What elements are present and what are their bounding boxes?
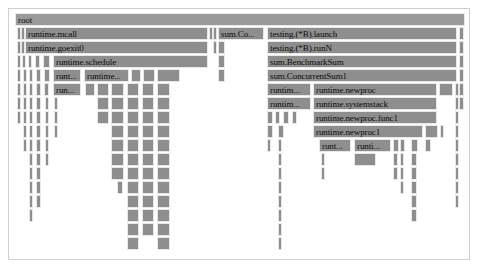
flame-frame-unlabeled[interactable] (54, 97, 58, 110)
flame-frame-unlabeled[interactable] (127, 153, 139, 166)
flame-frame-unlabeled[interactable] (36, 111, 41, 124)
flame-frame-unlabeled[interactable] (142, 181, 154, 194)
flame-frame-unlabeled[interactable] (36, 195, 41, 208)
flame-frame-unlabeled[interactable] (127, 167, 139, 180)
flame-frame-unlabeled[interactable] (400, 181, 404, 194)
flame-frame-unlabeled[interactable] (28, 55, 32, 68)
flame-frame-unlabeled[interactable] (218, 69, 225, 82)
flame-frame-unlabeled[interactable] (459, 41, 464, 54)
flame-frame-unlabeled[interactable] (267, 125, 273, 138)
flame-frame-unlabeled[interactable] (278, 237, 282, 250)
flame-frame-unlabeled[interactable] (111, 139, 124, 152)
flame-frame-unlabeled[interactable] (43, 55, 50, 68)
flame-frame-unlabeled[interactable] (411, 181, 417, 194)
flame-frame-unlabeled[interactable] (127, 209, 139, 222)
flame-frame-unlabeled[interactable] (36, 181, 41, 194)
flame-frame-unlabeled[interactable] (36, 97, 41, 110)
flame-frame-unlabeled[interactable] (131, 69, 141, 82)
flame-frame-unlabeled[interactable] (278, 125, 284, 138)
flame-frame-unlabeled[interactable] (54, 111, 58, 124)
flame-frame-unlabeled[interactable] (455, 153, 459, 166)
flame-frame-unlabeled[interactable] (455, 139, 459, 152)
flame-frame-unlabeled[interactable] (54, 125, 58, 138)
flame-frame-unlabeled[interactable] (157, 181, 170, 194)
flame-frame-unlabeled[interactable] (400, 167, 404, 180)
flame-frame-unlabeled[interactable] (127, 237, 139, 250)
flame-frame[interactable]: runtime.newproc1 (313, 125, 423, 138)
flame-frame-unlabeled[interactable] (278, 153, 282, 166)
flame-frame-unlabeled[interactable] (29, 181, 33, 194)
flame-frame-unlabeled[interactable] (17, 83, 21, 96)
flame-frame-unlabeled[interactable] (142, 153, 154, 166)
flame-frame-unlabeled[interactable] (97, 111, 109, 124)
flame-frame-unlabeled[interactable] (142, 97, 154, 110)
flame-frame-unlabeled[interactable] (278, 223, 282, 236)
flame-frame-unlabeled[interactable] (218, 41, 225, 54)
flame-frame[interactable]: root (15, 13, 465, 26)
flame-frame-unlabeled[interactable] (267, 111, 273, 124)
flame-frame-unlabeled[interactable] (218, 55, 225, 68)
flame-frame-unlabeled[interactable] (142, 167, 154, 180)
flame-frame-unlabeled[interactable] (142, 209, 154, 222)
flame-frame-unlabeled[interactable] (85, 83, 95, 96)
flame-frame-unlabeled[interactable] (29, 209, 33, 222)
flame-frame-unlabeled[interactable] (36, 83, 41, 96)
flame-frame-unlabeled[interactable] (23, 111, 27, 124)
flame-frame-unlabeled[interactable] (157, 125, 170, 138)
flame-frame[interactable]: runtime... (84, 69, 129, 82)
flame-frame-unlabeled[interactable] (127, 125, 139, 138)
flame-frame-unlabeled[interactable] (142, 83, 154, 96)
flame-frame-unlabeled[interactable] (213, 41, 217, 54)
flame-frame-unlabeled[interactable] (111, 111, 124, 124)
flame-frame-unlabeled[interactable] (411, 139, 418, 152)
flame-frame-unlabeled[interactable] (29, 83, 33, 96)
flame-frame-unlabeled[interactable] (278, 181, 282, 194)
flame-frame-unlabeled[interactable] (29, 167, 33, 180)
flame-frame-unlabeled[interactable] (127, 181, 139, 194)
flame-frame-unlabeled[interactable] (45, 111, 49, 124)
flame-frame[interactable]: runtime.newproc.func1 (313, 111, 437, 124)
flame-frame-unlabeled[interactable] (29, 111, 33, 124)
flame-frame-unlabeled[interactable] (157, 153, 170, 166)
flame-frame-unlabeled[interactable] (455, 125, 459, 138)
flame-frame-unlabeled[interactable] (157, 223, 170, 236)
flame-frame-unlabeled[interactable] (23, 125, 27, 138)
flame-frame-unlabeled[interactable] (29, 125, 33, 138)
flame-frame-unlabeled[interactable] (45, 139, 49, 152)
flame-frame-unlabeled[interactable] (278, 139, 282, 152)
flame-frame-unlabeled[interactable] (127, 83, 139, 96)
flame-frame[interactable]: runtime.mcall (25, 27, 208, 40)
flame-frame-unlabeled[interactable] (455, 195, 459, 208)
flame-frame[interactable]: runtim... (267, 97, 311, 110)
flame-frame-unlabeled[interactable] (283, 111, 289, 124)
flame-frame-unlabeled[interactable] (44, 69, 50, 82)
flame-frame-unlabeled[interactable] (17, 69, 21, 82)
flame-frame-unlabeled[interactable] (459, 27, 464, 40)
flame-frame[interactable]: sum.ConcurrentSum1 (267, 69, 457, 82)
flame-frame-unlabeled[interactable] (23, 83, 27, 96)
flame-frame-unlabeled[interactable] (411, 209, 417, 222)
flame-frame-unlabeled[interactable] (278, 167, 282, 180)
flame-frame[interactable]: runt... (319, 139, 351, 152)
flame-frame-unlabeled[interactable] (157, 111, 170, 124)
flame-frame-unlabeled[interactable] (127, 223, 139, 236)
flame-frame-unlabeled[interactable] (142, 139, 154, 152)
flame-frame-unlabeled[interactable] (400, 153, 404, 166)
flame-frame[interactable]: testing.(*B).launch (267, 27, 457, 40)
flame-frame[interactable]: runt... (53, 69, 81, 82)
flame-frame-unlabeled[interactable] (393, 153, 398, 166)
flame-frame-unlabeled[interactable] (425, 139, 431, 152)
flame-frame-unlabeled[interactable] (142, 111, 154, 124)
flame-frame-unlabeled[interactable] (213, 27, 217, 40)
flame-frame-unlabeled[interactable] (127, 111, 139, 124)
flame-frame-unlabeled[interactable] (111, 125, 124, 138)
flame-frame[interactable]: runtime.systemstack (313, 97, 437, 110)
flame-frame[interactable]: run... (53, 83, 81, 96)
flame-frame-unlabeled[interactable] (36, 153, 41, 166)
flame-frame-unlabeled[interactable] (36, 139, 41, 152)
flame-frame-unlabeled[interactable] (321, 153, 325, 166)
flame-frame-unlabeled[interactable] (157, 69, 180, 82)
flame-frame-unlabeled[interactable] (127, 195, 139, 208)
flame-frame-unlabeled[interactable] (22, 55, 26, 68)
flame-frame-unlabeled[interactable] (157, 195, 170, 208)
